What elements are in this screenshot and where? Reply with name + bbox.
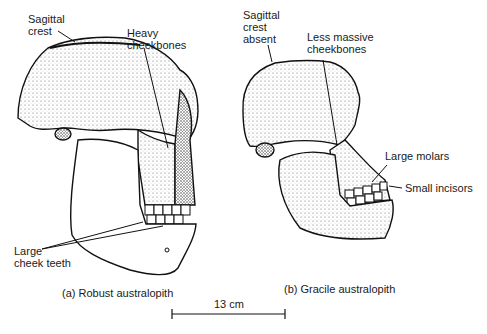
label-sagittal-crest-absent: Sagittal crest absent: [243, 9, 280, 45]
label-heavy-cheekbones: Heavy cheekbones: [127, 27, 186, 51]
robust-skull: [18, 37, 198, 274]
gracile-skull: [243, 61, 393, 239]
label-large-cheek-teeth: Large cheek teeth: [14, 245, 71, 269]
scale-bar-label: 13 cm: [214, 298, 244, 310]
label-small-incisors: Small incisors: [405, 182, 473, 194]
caption-robust-australopith: (a) Robust australopith: [62, 287, 173, 299]
label-large-molars: Large molars: [385, 150, 449, 162]
scale-bar-line: [172, 309, 285, 319]
caption-gracile-australopith: (b) Gracile australopith: [284, 283, 395, 295]
label-less-massive-cheekbones: Less massive cheekbones: [307, 31, 374, 55]
label-sagittal-crest: Sagittal crest: [28, 13, 65, 37]
skull-illustrations: [0, 0, 487, 334]
